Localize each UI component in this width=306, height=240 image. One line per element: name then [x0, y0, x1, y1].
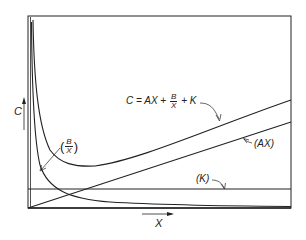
cost-diagram	[0, 0, 306, 240]
total-lhs: C = AX +	[126, 95, 166, 106]
total-fraction: B X	[170, 93, 177, 110]
k-label: (K)	[196, 174, 209, 184]
ax-line	[28, 122, 291, 208]
ax-label: (AX)	[254, 139, 274, 149]
ax-label-text: AX	[257, 138, 270, 149]
k-leader	[212, 180, 224, 188]
b-over-x-label: ( B X )	[60, 138, 78, 155]
total-cost-label: C = AX + B X + K	[126, 93, 196, 110]
y-arrow-head-icon	[22, 97, 26, 104]
x-arrow-head-icon	[167, 212, 174, 216]
x-axis-label: X	[155, 218, 162, 229]
total-frac-den: X	[171, 102, 176, 110]
bx-frac-den: X	[66, 147, 71, 155]
total-rhs: + K	[181, 95, 196, 106]
y-axis-label: C	[14, 106, 22, 117]
total-leader	[200, 103, 219, 119]
k-label-text: K	[199, 173, 206, 184]
plot-frame	[28, 16, 291, 208]
bx-fraction: B X	[65, 138, 72, 155]
